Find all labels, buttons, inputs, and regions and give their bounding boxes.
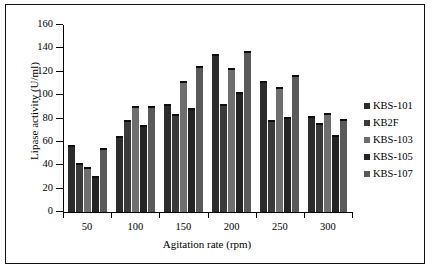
bar[interactable]: [220, 104, 227, 212]
bar-cap: [180, 81, 187, 83]
bar-group: [208, 25, 256, 212]
legend-item[interactable]: KBS-101: [364, 97, 426, 114]
x-tick-label: 150: [158, 221, 208, 232]
legend-label: KBS-105: [373, 151, 413, 162]
bar-group: [159, 25, 207, 212]
x-tick: [304, 212, 305, 218]
bar-cap: [116, 136, 123, 138]
bar[interactable]: [324, 113, 331, 212]
bar-cap: [196, 66, 203, 68]
x-tick-label: 200: [207, 221, 257, 232]
x-tick: [352, 212, 353, 218]
y-tick-label: 120: [37, 64, 53, 77]
legend-label: KBS-107: [373, 168, 413, 179]
bar[interactable]: [244, 51, 251, 212]
x-tick: [256, 212, 257, 218]
bar[interactable]: [172, 114, 179, 212]
bar[interactable]: [148, 106, 155, 212]
bar-cap: [68, 145, 75, 147]
y-tick: 60: [56, 141, 63, 142]
bar-cap: [260, 81, 267, 83]
bar-cap: [132, 106, 139, 108]
bar-cap: [92, 176, 99, 178]
bar-cap: [140, 125, 147, 127]
bar-cap: [220, 104, 227, 106]
bar[interactable]: [340, 119, 347, 213]
legend-label: KB2F: [373, 117, 399, 128]
bar-cap: [316, 123, 323, 125]
bar-cap: [324, 113, 331, 115]
bar[interactable]: [276, 87, 283, 212]
bar[interactable]: [212, 54, 219, 212]
bar-cap: [284, 117, 291, 119]
y-axis-title: Lipase activity (U/ml): [28, 31, 40, 191]
y-tick: 140: [56, 47, 63, 48]
x-tick-label: 300: [303, 221, 353, 232]
bar-cap: [124, 120, 131, 122]
bar-cap: [236, 92, 243, 94]
legend-swatch-icon: [364, 154, 370, 160]
bar-cap: [268, 120, 275, 122]
x-tick-label: 100: [110, 221, 160, 232]
y-tick-label: 140: [37, 40, 53, 53]
legend-item[interactable]: KBS-107: [364, 165, 426, 182]
bar[interactable]: [332, 135, 339, 212]
y-tick-label: 20: [43, 181, 54, 194]
legend-swatch-icon: [364, 120, 370, 126]
y-tick-label: 160: [37, 17, 53, 30]
bar[interactable]: [260, 81, 267, 212]
y-tick: 0: [56, 211, 63, 212]
y-tick: 120: [56, 71, 63, 72]
legend-swatch-icon: [364, 103, 370, 109]
bar[interactable]: [284, 117, 291, 212]
bar[interactable]: [68, 145, 75, 212]
legend-swatch-icon: [364, 137, 370, 143]
bar-cap: [340, 119, 347, 121]
chart-area: Lipase activity (U/ml) 02040608010012014…: [6, 5, 426, 263]
y-tick-label: 60: [43, 134, 54, 147]
bar[interactable]: [92, 176, 99, 212]
bar[interactable]: [100, 148, 107, 212]
bar-cap: [84, 167, 91, 169]
bar-group: [63, 25, 111, 212]
bar[interactable]: [76, 163, 83, 212]
bar[interactable]: [116, 136, 123, 212]
bar-cap: [228, 68, 235, 70]
bar-cap: [276, 87, 283, 89]
bar-cap: [212, 54, 219, 56]
bar[interactable]: [292, 75, 299, 212]
y-tick: 80: [56, 118, 63, 119]
plot-region: 020406080100120140160 50100150200250300: [63, 25, 352, 212]
bar[interactable]: [196, 66, 203, 212]
bar[interactable]: [180, 81, 187, 212]
bar-group: [111, 25, 159, 212]
bar[interactable]: [228, 68, 235, 212]
bar-cap: [164, 104, 171, 106]
bar-cap: [244, 51, 251, 53]
x-tick: [111, 212, 112, 218]
legend-item[interactable]: KB2F: [364, 114, 426, 131]
legend-item[interactable]: KBS-103: [364, 131, 426, 148]
y-tick-label: 0: [48, 204, 53, 217]
bar-group: [256, 25, 304, 212]
bar[interactable]: [132, 106, 139, 212]
bar[interactable]: [124, 120, 131, 212]
bar[interactable]: [140, 125, 147, 212]
bar-cap: [148, 106, 155, 108]
legend-label: KBS-101: [373, 100, 413, 111]
figure-frame: Lipase activity (U/ml) 02040608010012014…: [5, 4, 425, 264]
bar[interactable]: [316, 123, 323, 212]
bar[interactable]: [308, 116, 315, 212]
bar-group: [304, 25, 352, 212]
y-tick: 100: [56, 94, 63, 95]
bar[interactable]: [164, 104, 171, 212]
bar[interactable]: [268, 120, 275, 212]
bar-cap: [308, 116, 315, 118]
y-tick-label: 80: [43, 111, 54, 124]
bar[interactable]: [84, 167, 91, 212]
y-tick-label: 100: [37, 87, 53, 100]
legend-item[interactable]: KBS-105: [364, 148, 426, 165]
bar[interactable]: [188, 108, 195, 212]
bar[interactable]: [236, 92, 243, 212]
bar-cap: [172, 114, 179, 116]
